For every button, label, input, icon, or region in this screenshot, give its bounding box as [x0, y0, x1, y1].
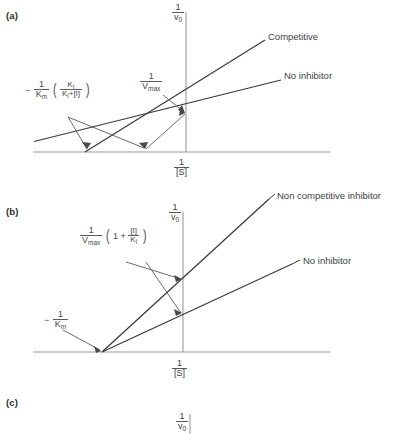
arrow-to-noncompetitive-y-intercept	[126, 262, 181, 279]
panel-a-annotation-arrows	[68, 95, 185, 149]
panel-b-leader-non-competitive	[269, 194, 275, 199]
panel-a-annotation-ki-den: Ki+[I]	[60, 89, 82, 98]
panel-b-line-non-competitive	[102, 199, 269, 352]
panel-b-annotation-close-paren: )	[143, 227, 147, 244]
panel-b-annotation-i-num: [I]	[128, 227, 139, 235]
panel-b-annotation-km-den: Km	[53, 319, 68, 329]
panel-b-annotation-open-paren: (	[106, 227, 110, 244]
panel-a-x-axis-fraction: 1 [S]	[174, 158, 189, 177]
panel-a-y-axis-fraction: 1 v0	[172, 3, 184, 22]
panel-b-y-axis-fraction: 1 v0	[169, 203, 181, 222]
arrowhead-a-1	[82, 142, 91, 149]
panel-b-x-axis-fraction: 1 [S]	[172, 359, 187, 378]
panel-b-line-no-inhibitor	[102, 264, 292, 352]
panel-a-annotation-open-paren: (	[53, 81, 57, 98]
panel-b-annotation-km-fraction: 1 Km	[53, 310, 68, 329]
panel-b-annotation-arrows	[63, 262, 181, 350]
panel-a-y-axis-numerator: 1	[172, 3, 184, 12]
panel-a-x-axis-numerator: 1	[174, 158, 189, 167]
panel-a-series-label-no-inhibitor: No inhibitor	[284, 70, 332, 81]
arrowhead-b-1	[174, 275, 182, 282]
panel-b-axes	[33, 212, 330, 352]
panel-b-y-axis-label: 1 v0	[169, 203, 181, 222]
panel-a-y-axis-denominator: v0	[172, 12, 184, 22]
panel-b-annotation-km-sub: m	[61, 323, 66, 330]
panel-b-leader-no-inhibitor	[292, 260, 300, 264]
panel-a-annotation-frac-km: 1 Km	[34, 80, 49, 99]
panel-a-annotation-ki-den-tail: +[I]	[69, 89, 80, 98]
panel-b-label: (b)	[6, 206, 19, 217]
panel-b-annotation-ki-den-sub: i	[136, 238, 137, 245]
panel-b-annotation-vmax-sub: max	[88, 239, 100, 246]
panel-a-annotation-km-sub: m	[42, 93, 47, 100]
panel-a-label: (a)	[6, 10, 18, 21]
panel-c-y-axis-numerator: 1	[176, 412, 188, 421]
panel-b-x-axis-numerator: 1	[172, 359, 187, 368]
panel-b-y-axis-denominator-sub: 0	[176, 216, 180, 223]
panel-a-annotation-x-intercept: − 1 Km ( Ki Ki+[I] )	[25, 80, 90, 99]
panel-b-annotation-one: 1	[113, 231, 118, 241]
panel-b-y-axis-denominator: v0	[169, 212, 181, 222]
panel-a-annotation-close-paren: )	[86, 81, 90, 98]
panel-c-y-axis-fraction: 1 v0	[176, 412, 188, 431]
panel-c-label: (c)	[6, 397, 18, 408]
panel-b-series-label-no-inhibitor: No inhibitor	[303, 255, 351, 266]
panel-b-annotation-x-intercept: − 1 Km	[44, 310, 68, 329]
panel-a-arrowheads	[82, 105, 185, 149]
panel-c-y-axis-denominator: v0	[176, 421, 188, 431]
panel-b-annotation-ki-den: Ki	[128, 235, 139, 244]
panel-b-x-axis-denominator: [S]	[172, 368, 187, 378]
panel-b-x-axis-label: 1 [S]	[172, 359, 187, 378]
panel-b-series-label-non-competitive: Non competitive inhibitor	[277, 190, 381, 201]
panel-a-x-axis-denominator: [S]	[174, 167, 189, 177]
panel-a-annotation-frac-ki: Ki Ki+[I]	[60, 81, 82, 98]
panel-b-annotation-vmax-num: 1	[80, 226, 102, 235]
arrow-from-x-intercept-area	[146, 114, 185, 149]
panel-a-annotation-km-num: 1	[34, 80, 49, 89]
panel-b-y-axis-numerator: 1	[169, 203, 181, 212]
panel-c-y-axis-denominator-sub: 0	[183, 425, 187, 432]
panel-a-annotation-vmax-fraction: 1 Vmax	[140, 72, 162, 91]
panel-b-annotation-vmax-fraction: 1 Vmax	[80, 226, 102, 245]
panel-a-y-axis-denominator-sub: 0	[179, 16, 183, 23]
panel-b-annotation-y-intercept: 1 Vmax ( 1 + [I] Ki )	[80, 226, 147, 245]
arrow-to-no-inhibitor-y-intercept	[146, 262, 181, 313]
panel-b-annotation-plus: +	[121, 231, 126, 241]
panel-b-annotation-vmax-den: Vmax	[80, 235, 102, 245]
panel-b-arrowheads	[94, 275, 182, 353]
panel-a-annotation-minus: −	[25, 85, 31, 95]
panel-a-annotation-ki-num: Ki	[60, 81, 82, 89]
panel-a-annotation-vmax-den: Vmax	[140, 81, 162, 91]
panel-b-series	[102, 199, 292, 352]
panel-c-y-axis-label: 1 v0	[176, 412, 188, 431]
panel-a-annotation-y-intercept: 1 Vmax	[140, 72, 162, 91]
panel-b-annotation-frac-i-ki: [I] Ki	[128, 227, 139, 244]
panel-b-leaders	[269, 194, 300, 264]
panel-b-annotation-km-num: 1	[53, 310, 68, 319]
panel-b-annotation-minus: −	[44, 315, 50, 325]
plot-canvas	[0, 0, 409, 434]
panel-a-y-axis-label: 1 v0	[172, 3, 184, 22]
lineweaver-burk-figure: (a) 1 v0 1 [S] − 1 Km ( Ki Ki+[I] )	[0, 0, 409, 434]
panel-a-annotation-ki-den-sub: i	[67, 92, 68, 99]
panel-a-x-axis-label: 1 [S]	[174, 158, 189, 177]
panel-a-series-label-competitive: Competitive	[268, 31, 318, 42]
panel-a-annotation-vmax-sub: max	[148, 85, 160, 92]
panel-a-annotation-vmax-num: 1	[140, 72, 162, 81]
panel-a-annotation-km-den: Km	[34, 89, 49, 99]
